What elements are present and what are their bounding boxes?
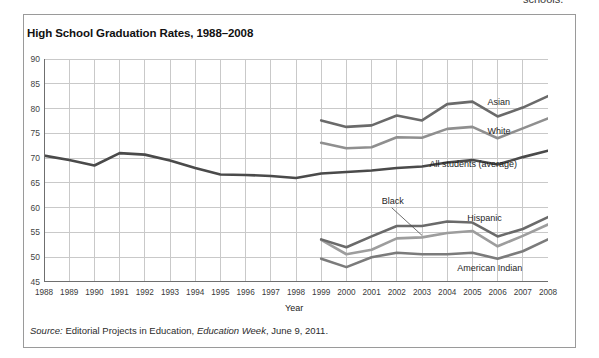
series-label-all-students-average: All students (average)	[430, 159, 518, 169]
series-label-black: Black	[382, 196, 404, 206]
series-label-asian: Asian	[488, 97, 511, 107]
x-tick-label: 2008	[531, 288, 565, 297]
x-axis-title: Year	[285, 303, 303, 313]
series-label-white: White	[488, 126, 511, 136]
series-label-hispanic: Hispanic	[467, 213, 502, 223]
source-text-1: Editorial Projects in Education,	[63, 325, 197, 336]
series-label-american-indian: American Indian	[457, 263, 522, 273]
source-publication: Education Week	[197, 325, 266, 336]
source-text-2: , June 9, 2011.	[266, 325, 328, 336]
source-note: Source: Editorial Projects in Education,…	[30, 325, 328, 336]
source-prefix: Source:	[30, 325, 63, 336]
